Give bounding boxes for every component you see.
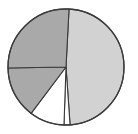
slice-large-light-right: Slice 1 48.1% xyxy=(66,9,124,125)
pie-chart-figure: Slice 1 48.1%Slice 2 1.7%Slice 3 9.7%Sli… xyxy=(0,0,138,134)
pie-chart-svg: Slice 1 48.1%Slice 2 1.7%Slice 3 9.7%Sli… xyxy=(0,0,138,134)
slice-gray-upper-left: Slice 5 26.1% xyxy=(8,9,69,68)
